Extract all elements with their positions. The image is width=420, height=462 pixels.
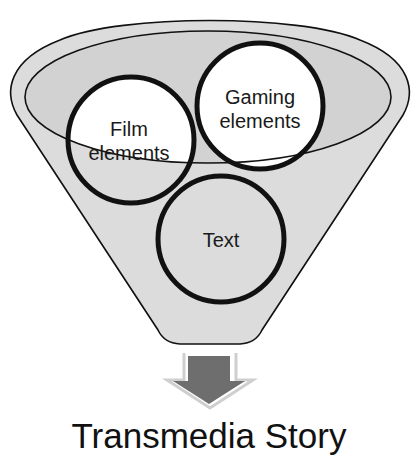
down-arrow-icon — [167, 353, 253, 408]
film-label-line2: elements — [88, 142, 169, 164]
gaming-label-line1: Gaming — [225, 86, 295, 108]
transmedia-funnel-diagram: Film elements Gaming elements Text Trans… — [0, 0, 420, 462]
diagram-title: Transmedia Story — [72, 416, 347, 455]
film-label-line1: Film — [110, 118, 148, 140]
gaming-label-line2: elements — [219, 110, 300, 132]
text-label: Text — [203, 229, 240, 251]
